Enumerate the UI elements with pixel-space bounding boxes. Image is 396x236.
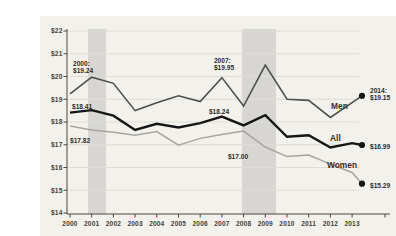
x-tick-label: 2009 bbox=[258, 220, 273, 227]
x-tick-label: 2013 bbox=[344, 220, 359, 227]
women-2014-annotation: $15.29 bbox=[370, 182, 391, 190]
series-label-women: Women bbox=[327, 160, 357, 170]
men-2014-annotation: 2014:$19.15 bbox=[370, 87, 391, 102]
women-2007-annotation: $17.00 bbox=[228, 153, 249, 161]
x-tick-label: 2012 bbox=[323, 220, 338, 227]
x-tick-label: 2002 bbox=[106, 220, 121, 227]
men-end-dot bbox=[359, 93, 365, 99]
x-tick-label: 2011 bbox=[301, 220, 316, 227]
y-tick-label: $22 bbox=[51, 27, 63, 35]
all-2000-annotation: $18.41 bbox=[72, 103, 93, 111]
series-label-all: All bbox=[330, 133, 341, 143]
women-end-dot bbox=[359, 181, 365, 187]
x-tick-label: 2004 bbox=[149, 220, 164, 227]
all-end-dot bbox=[359, 142, 365, 148]
women-2000-annotation: $17.82 bbox=[70, 137, 91, 145]
women-line bbox=[70, 126, 362, 184]
men-2007-annotation: 2007:$19.95 bbox=[214, 57, 235, 72]
y-tick-label: $14 bbox=[51, 209, 63, 217]
chart-canvas: $14$15$16$17$18$19$20$21$222000200120022… bbox=[40, 16, 396, 236]
x-tick-label: 2010 bbox=[279, 220, 294, 227]
y-tick-label: $16 bbox=[51, 164, 63, 172]
y-tick-label: $18 bbox=[51, 118, 63, 126]
y-tick-label: $21 bbox=[51, 50, 63, 58]
wage-line-chart: $14$15$16$17$18$19$20$21$222000200120022… bbox=[40, 16, 396, 236]
all-2014-annotation: $16.99 bbox=[370, 143, 391, 151]
all-line bbox=[70, 110, 362, 147]
x-tick-label: 2005 bbox=[171, 220, 186, 227]
all-2007-annotation: $18.24 bbox=[209, 108, 230, 116]
x-tick-label: 2007 bbox=[214, 220, 229, 227]
y-tick-label: $19 bbox=[51, 96, 63, 104]
series-label-men: Men bbox=[331, 101, 348, 111]
y-tick-label: $15 bbox=[51, 187, 63, 195]
x-tick-label: 2001 bbox=[84, 220, 99, 227]
y-tick-label: $20 bbox=[51, 73, 63, 81]
y-tick-label: $17 bbox=[51, 141, 63, 149]
x-tick-label: 2000 bbox=[62, 220, 77, 227]
x-tick-label: 2006 bbox=[193, 220, 208, 227]
x-tick-label: 2008 bbox=[236, 220, 251, 227]
x-tick-label: 2003 bbox=[127, 220, 142, 227]
